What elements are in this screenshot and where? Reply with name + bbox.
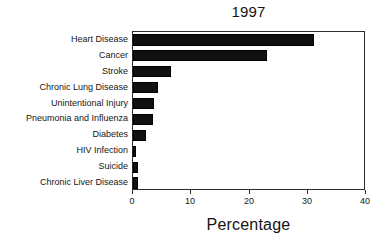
x-tick-label: 40: [345, 196, 385, 207]
x-tick-label: 20: [229, 196, 269, 207]
category-label: Heart Disease: [0, 34, 128, 44]
x-tick-mark: [190, 190, 191, 194]
x-tick-label: 0: [112, 196, 152, 207]
category-label: Stroke: [0, 66, 128, 76]
bar-row: [133, 66, 364, 77]
bar-row: [133, 162, 364, 173]
bar-row: [133, 98, 364, 109]
plot-area: [132, 31, 365, 190]
bar: [133, 98, 154, 109]
bar: [133, 177, 138, 188]
category-label: HIV Infection: [0, 145, 128, 155]
x-axis-title: Percentage: [132, 215, 365, 235]
bar: [133, 130, 146, 141]
category-label: Diabetes: [0, 129, 128, 139]
x-tick-label: 30: [287, 196, 327, 207]
category-label: Cancer: [0, 50, 128, 60]
x-tick-mark: [249, 190, 250, 194]
category-axis-labels: Heart DiseaseCancerStrokeChronic Lung Di…: [0, 31, 128, 190]
bar-row: [133, 34, 364, 45]
bar-row: [133, 177, 364, 188]
bar: [133, 114, 153, 125]
bar-row: [133, 130, 364, 141]
x-tick-label: 10: [170, 196, 210, 207]
category-label: Unintentional Injury: [0, 98, 128, 108]
bar-row: [133, 114, 364, 125]
bar-row: [133, 82, 364, 93]
x-tick-mark: [307, 190, 308, 194]
category-label: Suicide: [0, 161, 128, 171]
category-label: Chronic Lung Disease: [0, 82, 128, 92]
bar-row: [133, 146, 364, 157]
chart-title: 1997: [132, 3, 365, 21]
category-label: Chronic Liver Disease: [0, 177, 128, 187]
bar: [133, 50, 267, 61]
bar: [133, 82, 158, 93]
x-axis-ticks: 010203040: [0, 190, 388, 216]
bar: [133, 66, 171, 77]
bar-row: [133, 50, 364, 61]
x-tick-mark: [365, 190, 366, 194]
bar: [133, 34, 314, 45]
category-label: Pneumonia and Influenza: [0, 113, 128, 123]
bar: [133, 146, 136, 157]
x-tick-mark: [132, 190, 133, 194]
bar: [133, 162, 138, 173]
bar-chart-figure: 1997 Heart DiseaseCancerStrokeChronic Lu…: [0, 0, 388, 246]
